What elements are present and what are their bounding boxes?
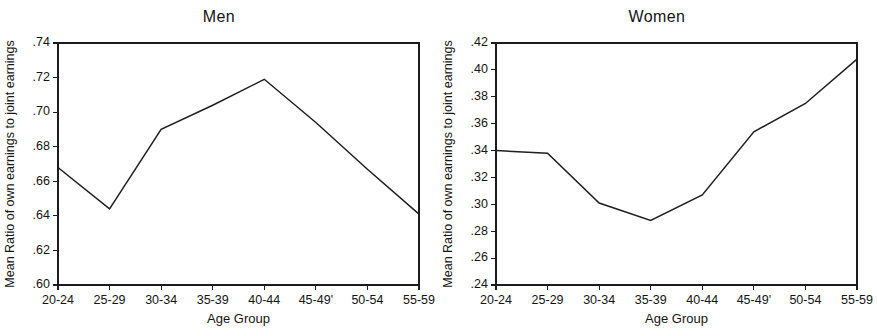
x-tick-label: 50-54 <box>789 293 821 307</box>
x-tick-label: 55-59 <box>841 293 873 307</box>
y-axis-title: Mean Ratio of own earnings to joint earn… <box>441 40 455 287</box>
x-axis-title: Age Group <box>645 311 708 326</box>
y-tick-label: .62 <box>33 243 50 257</box>
y-tick-label: .30 <box>471 197 488 211</box>
x-tick-label: 20-24 <box>480 293 512 307</box>
plot-frame-women <box>496 43 857 285</box>
x-tick-label: 25-29 <box>532 293 564 307</box>
x-tick-label: 45-49' <box>737 293 771 307</box>
y-axis-title: Mean Ratio of own earnings to joint earn… <box>3 40 17 287</box>
x-tick-label: 30-34 <box>145 293 177 307</box>
plot-area-women: .24.26.28.30.32.34.36.38.40.4220-2425-29… <box>438 0 876 336</box>
x-axis-title: Age Group <box>207 311 270 326</box>
plot-frame-men <box>58 43 419 285</box>
y-tick-label: .64 <box>33 208 50 222</box>
x-tick-label: 30-34 <box>583 293 615 307</box>
data-series-line <box>496 59 857 220</box>
y-tick-label: .36 <box>471 116 488 130</box>
panel-women: Women .24.26.28.30.32.34.36.38.40.4220-2… <box>438 0 876 336</box>
y-tick-label: .26 <box>471 250 488 264</box>
y-tick-label: .42 <box>471 35 488 49</box>
figure-two-panel-line-charts: Men .60.62.64.66.68.70.72.7420-2425-2930… <box>0 0 877 336</box>
data-series-line <box>58 79 419 214</box>
y-tick-label: .28 <box>471 224 488 238</box>
y-tick-label: .72 <box>33 70 50 84</box>
y-tick-label: .32 <box>471 170 488 184</box>
x-tick-label: 45-49' <box>299 293 333 307</box>
x-tick-label: 35-39 <box>635 293 667 307</box>
x-tick-label: 55-59 <box>403 293 435 307</box>
y-tick-label: .24 <box>471 277 488 291</box>
plot-area-men: .60.62.64.66.68.70.72.7420-2425-2930-343… <box>0 0 438 336</box>
x-tick-label: 20-24 <box>42 293 74 307</box>
y-tick-label: .66 <box>33 174 50 188</box>
x-tick-label: 40-44 <box>248 293 280 307</box>
y-tick-label: .38 <box>471 89 488 103</box>
x-tick-label: 40-44 <box>686 293 718 307</box>
y-tick-label: .40 <box>471 62 488 76</box>
y-tick-label: .68 <box>33 139 50 153</box>
y-tick-label: .70 <box>33 104 50 118</box>
panel-men: Men .60.62.64.66.68.70.72.7420-2425-2930… <box>0 0 438 336</box>
y-tick-label: .34 <box>471 143 488 157</box>
x-tick-label: 35-39 <box>197 293 229 307</box>
x-tick-label: 25-29 <box>94 293 126 307</box>
y-tick-label: .74 <box>33 35 50 49</box>
y-tick-label: .60 <box>33 277 50 291</box>
x-tick-label: 50-54 <box>351 293 383 307</box>
